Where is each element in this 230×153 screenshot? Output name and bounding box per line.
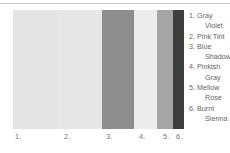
x-label: 3. [106, 132, 112, 141]
top-rule [0, 3, 230, 4]
stripe-blue-shadow [102, 10, 134, 129]
legend-item: 1. GrayViolet [189, 11, 230, 32]
x-label: 2. [64, 132, 70, 141]
legend-item: 5. MellowRose [189, 83, 230, 104]
x-label: 1. [15, 132, 21, 141]
x-label: 4. [139, 132, 145, 141]
x-axis-labels: 1. 2. 3. 4. 5. 6. [0, 132, 190, 146]
x-label: 5. [163, 132, 169, 141]
legend-item: 6. BurntSienna [189, 104, 230, 125]
color-swatch-strip [13, 10, 184, 129]
legend-item: 4. PinkishGray [189, 62, 230, 83]
stripe-mellow-rose [157, 10, 173, 129]
stripe-burnt-sienna [173, 10, 184, 129]
stripe-gray-violet [13, 10, 58, 129]
legend-item: 3. BlueShadow [189, 42, 230, 63]
x-label: 6. [176, 132, 182, 141]
legend: 1. GrayViolet 2. Pink Tint 3. BlueShadow… [189, 11, 230, 124]
legend-item: 2. Pink Tint [189, 32, 230, 42]
stripe-pink-tint [58, 10, 102, 129]
stripe-pinkish-gray [134, 10, 157, 129]
